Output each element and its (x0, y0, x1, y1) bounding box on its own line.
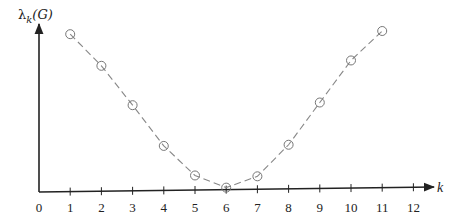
x-tick-label: 7 (254, 200, 261, 215)
x-tick-label: 6 (223, 200, 230, 215)
chart: 0123456789101112 λk(G) k (0, 0, 460, 223)
x-axis (39, 187, 434, 192)
x-tick-label: 10 (345, 200, 358, 215)
y-axis-label: λk(G) (18, 7, 53, 25)
x-tick-label: 11 (376, 200, 389, 215)
x-tick-label: 9 (317, 200, 324, 215)
x-axis-label: k (437, 180, 444, 195)
x-tick-label: 8 (285, 200, 292, 215)
x-tick-label: 1 (67, 200, 74, 215)
x-tick-label: 3 (129, 200, 136, 215)
x-tick-label: 12 (407, 200, 420, 215)
series-line (70, 31, 382, 188)
data-point-marker (378, 27, 387, 36)
x-tick-label: 2 (98, 200, 105, 215)
x-tick-label: 0 (36, 200, 43, 215)
data-point-marker (347, 56, 356, 65)
data-series (66, 27, 387, 193)
x-tick-label: 5 (192, 200, 199, 215)
x-tick-label: 4 (161, 200, 168, 215)
